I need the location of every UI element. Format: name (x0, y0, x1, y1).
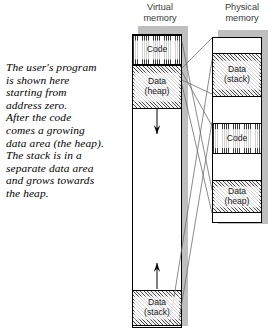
caption-line: The user's program (6, 61, 128, 74)
caption-line: separate data area (6, 162, 128, 175)
physical-block-label: Code (227, 134, 248, 144)
caption-line: data area (the heap). (6, 137, 128, 150)
explanatory-caption: The user's programis shown herestarting … (6, 61, 128, 200)
virtual-block-sublabel: (stack) (144, 308, 170, 318)
memory-mapping-diagram: The user's programis shown herestarting … (0, 0, 279, 330)
physical-memory-column: Data(stack)CodeData(heap) (212, 37, 262, 223)
caption-line: After the code (6, 111, 128, 124)
physical-memory-header-line1: Physical (210, 2, 274, 13)
physical-memory-header: Physical memory (210, 2, 274, 24)
physical-block-free (213, 38, 261, 53)
caption-line: is shown here (6, 74, 128, 87)
caption-line: and grows towards (6, 174, 128, 187)
virtual-block-code: Code (133, 35, 181, 65)
physical-block-data-stack: Data(stack) (213, 53, 261, 97)
physical-block-free (213, 97, 261, 123)
virtual-block-sublabel: (heap) (145, 87, 170, 97)
virtual-memory-column: CodeData(heap)Data(stack) (132, 34, 182, 328)
physical-block-code: Code (213, 123, 261, 154)
caption-line: address zero. (6, 99, 128, 112)
virtual-block-data-stack: Data(stack) (133, 290, 181, 326)
caption-line: The stack is in a (6, 149, 128, 162)
virtual-block-label: Code (147, 45, 168, 55)
physical-block-sublabel: (heap) (225, 197, 250, 207)
caption-line: the heap. (6, 187, 128, 200)
physical-block-sublabel: (stack) (224, 75, 250, 85)
virtual-block-data-heap: Data(heap) (133, 65, 181, 109)
virtual-memory-header-line2: memory (128, 13, 192, 24)
physical-block-free (213, 213, 261, 221)
virtual-block-free (133, 109, 181, 290)
virtual-memory-header-line1: Virtual (128, 2, 192, 13)
physical-memory-header-line2: memory (210, 13, 274, 24)
caption-line: comes a growing (6, 124, 128, 137)
physical-block-data-heap: Data(heap) (213, 180, 261, 213)
caption-line: starting from (6, 86, 128, 99)
virtual-memory-header: Virtual memory (128, 2, 192, 24)
physical-block-free (213, 154, 261, 180)
